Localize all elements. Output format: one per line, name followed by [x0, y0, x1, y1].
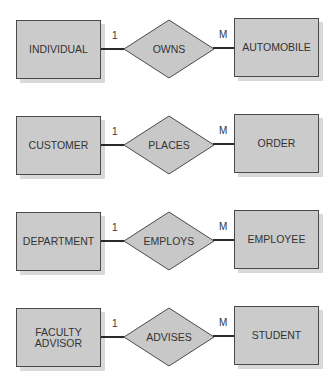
entity-order: ORDER [234, 114, 319, 173]
relationship-label: ADVISES [123, 307, 215, 367]
cardinality-many: M [219, 317, 227, 328]
relationship-advises: ADVISES [123, 307, 215, 367]
relationship-owns: OWNS [123, 19, 215, 79]
er-row-owns: INDIVIDUAL 1 OWNS M AUTOMOBILE [0, 20, 336, 90]
cardinality-many: M [219, 221, 227, 232]
connector-line [101, 336, 124, 338]
cardinality-one: 1 [112, 126, 118, 137]
relationship-employs: EMPLOYS [123, 211, 215, 271]
relationship-label: PLACES [123, 115, 215, 175]
cardinality-one: 1 [112, 222, 118, 233]
connector-line [101, 240, 124, 242]
connector-line [213, 47, 235, 49]
connector-line [213, 143, 235, 145]
er-row-places: CUSTOMER 1 PLACES M ORDER [0, 116, 336, 186]
er-row-advises: FACULTY ADVISOR 1 ADVISES M STUDENT [0, 308, 336, 378]
entity-customer: CUSTOMER [16, 116, 101, 175]
entity-student: STUDENT [234, 306, 319, 365]
er-row-employs: DEPARTMENT 1 EMPLOYS M EMPLOYEE [0, 212, 336, 282]
connector-line [213, 335, 235, 337]
cardinality-many: M [219, 125, 227, 136]
entity-department: DEPARTMENT [16, 212, 101, 271]
relationship-label: OWNS [123, 19, 215, 79]
connector-line [213, 239, 235, 241]
entity-faculty-advisor: FACULTY ADVISOR [16, 308, 101, 367]
cardinality-many: M [219, 29, 227, 40]
cardinality-one: 1 [112, 318, 118, 329]
entity-individual: INDIVIDUAL [16, 20, 101, 79]
relationship-places: PLACES [123, 115, 215, 175]
entity-automobile: AUTOMOBILE [234, 18, 319, 77]
entity-employee: EMPLOYEE [234, 210, 319, 269]
cardinality-one: 1 [112, 30, 118, 41]
connector-line [101, 48, 124, 50]
relationship-label: EMPLOYS [123, 211, 215, 271]
connector-line [101, 144, 124, 146]
